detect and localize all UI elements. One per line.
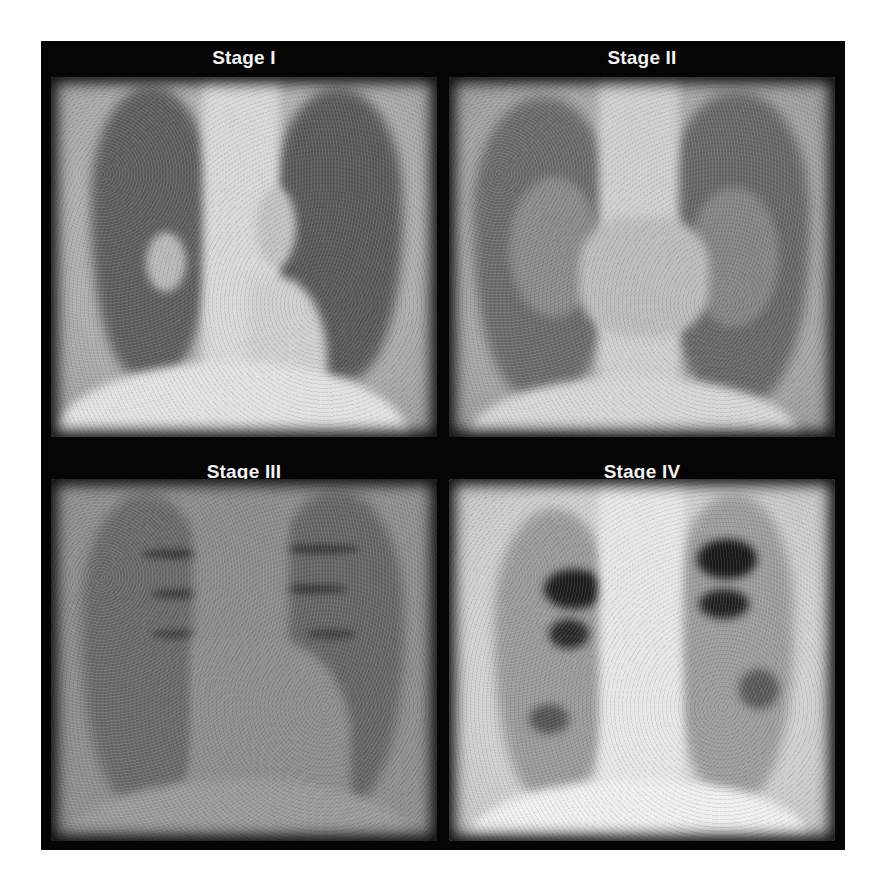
chest-xray-image [51,479,437,841]
panel-stage-3: Stage III [47,441,441,841]
chest-xray-image [449,77,835,437]
panel-stage-2: Stage II [445,41,839,441]
chest-xray-image [51,77,437,437]
panel-stage-4: Stage IV [445,441,839,841]
panel-label: Stage II [445,41,839,75]
chest-xray-image [449,479,835,841]
panel-label: Stage I [47,41,441,75]
staging-figure: Stage I Stage II [41,41,845,850]
panel-stage-1: Stage I [47,41,441,441]
